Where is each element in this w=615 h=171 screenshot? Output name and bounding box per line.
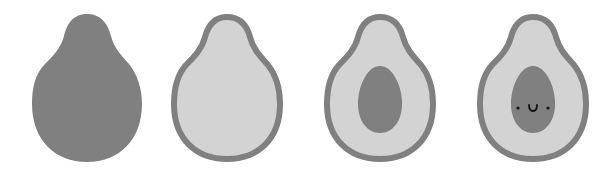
avocado-steps-illustration	[0, 0, 615, 171]
avocado-silhouette-icon	[17, 0, 157, 171]
avocado-step-1	[17, 0, 157, 171]
avocado-step-3	[310, 0, 450, 171]
avocado-step-2	[157, 0, 297, 171]
avocado-outline-icon	[157, 0, 297, 171]
avocado-kawaii-icon	[463, 0, 603, 171]
avocado-step-4	[463, 0, 603, 171]
avocado-half-icon	[310, 0, 450, 171]
left-eye-icon	[516, 106, 519, 109]
right-eye-icon	[546, 106, 549, 109]
